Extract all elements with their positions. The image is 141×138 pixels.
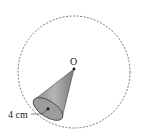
radius-label: 4 cm [8, 110, 28, 120]
sphere-outline [18, 16, 130, 128]
apex-label: O [70, 57, 77, 67]
apex-point [73, 68, 76, 71]
base-center-point [47, 108, 50, 111]
